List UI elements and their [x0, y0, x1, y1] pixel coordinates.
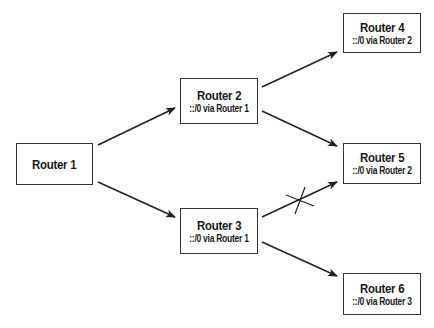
blocked-x-mark-icon — [286, 187, 314, 214]
edge-router1-router3 — [98, 182, 175, 217]
router-5-title: Router 5 — [360, 150, 404, 165]
router-4-title: Router 4 — [360, 20, 404, 35]
router-5-route: ::/0 via Router 2 — [352, 165, 411, 177]
router-4-route: ::/0 via Router 2 — [352, 35, 411, 47]
edge-router1-router2 — [98, 108, 175, 145]
router-6-node: Router 6 ::/0 via Router 3 — [343, 273, 421, 315]
router-3-node: Router 3 ::/0 via Router 1 — [180, 208, 258, 254]
router-default-route-diagram: Router 1 Router 2 ::/0 via Router 1 Rout… — [0, 0, 434, 328]
router-4-node: Router 4 ::/0 via Router 2 — [343, 13, 421, 53]
edge-router3-router5-blocked — [262, 182, 337, 217]
router-2-node: Router 2 ::/0 via Router 1 — [180, 78, 258, 124]
edge-router3-router6 — [262, 242, 337, 276]
router-2-title: Router 2 — [197, 88, 241, 103]
router-5-node: Router 5 ::/0 via Router 2 — [343, 143, 421, 184]
edge-router2-router5 — [262, 111, 337, 146]
router-1-node: Router 1 — [16, 143, 93, 185]
router-6-title: Router 6 — [360, 281, 404, 296]
router-2-route: ::/0 via Router 1 — [189, 103, 248, 115]
router-1-title: Router 1 — [32, 157, 76, 172]
router-6-route: ::/0 via Router 3 — [352, 296, 411, 308]
router-3-route: ::/0 via Router 1 — [189, 233, 248, 245]
edge-router2-router4 — [262, 52, 337, 87]
router-3-title: Router 3 — [197, 218, 241, 233]
